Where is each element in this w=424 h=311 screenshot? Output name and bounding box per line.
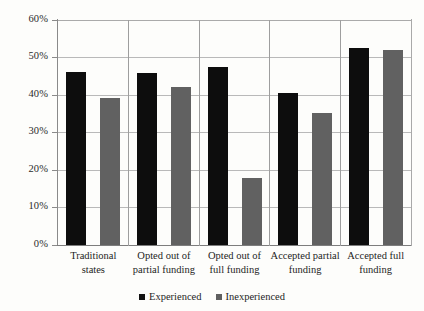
x-axis-label-line: Accepted partial bbox=[266, 249, 345, 263]
bar-experienced-1 bbox=[137, 73, 157, 246]
bar-inexperienced-3 bbox=[312, 113, 332, 245]
y-axis-label-30: 30% bbox=[4, 126, 48, 137]
y-axis-label-0: 0% bbox=[4, 239, 48, 250]
bars-layer bbox=[58, 20, 411, 245]
bar-chart: 60% 50% 40% 30% 20% 10% 0% Traditionalst… bbox=[0, 0, 424, 311]
x-axis-label-line: funding bbox=[336, 263, 415, 277]
legend-label-inexperienced: Inexperienced bbox=[226, 291, 285, 302]
black-square-icon bbox=[139, 294, 145, 300]
legend-item-experienced: Experienced bbox=[139, 291, 201, 302]
x-axis-label-line: Traditional bbox=[54, 249, 133, 263]
x-axis-label-4: Accepted fullfunding bbox=[336, 249, 415, 276]
plot-right-border bbox=[411, 19, 412, 246]
x-axis-label-line: Opted out of bbox=[195, 249, 274, 263]
x-axis-label-line: Accepted full bbox=[336, 249, 415, 263]
chart-legend: Experienced Inexperienced bbox=[0, 291, 424, 302]
x-axis-label-2: Opted out offull funding bbox=[195, 249, 274, 276]
legend-item-inexperienced: Inexperienced bbox=[216, 291, 285, 302]
x-axis-line bbox=[57, 245, 412, 246]
x-axis-label-line: Opted out of bbox=[125, 249, 204, 263]
gray-square-icon bbox=[216, 294, 222, 300]
x-axis-label-line: funding bbox=[266, 263, 345, 277]
x-axis-label-1: Opted out ofpartial funding bbox=[125, 249, 204, 276]
y-axis-label-50: 50% bbox=[4, 51, 48, 62]
bar-experienced-4 bbox=[349, 48, 369, 245]
y-axis-label-10: 10% bbox=[4, 201, 48, 212]
bar-inexperienced-4 bbox=[383, 50, 403, 245]
bar-experienced-3 bbox=[278, 93, 298, 245]
bar-experienced-2 bbox=[208, 67, 228, 245]
x-axis-label-3: Accepted partialfunding bbox=[266, 249, 345, 276]
x-axis-label-line: partial funding bbox=[125, 263, 204, 277]
x-axis-label-line: full funding bbox=[195, 263, 274, 277]
y-axis-label-60: 60% bbox=[4, 14, 48, 25]
x-axis-label-line: states bbox=[54, 263, 133, 277]
bar-inexperienced-2 bbox=[242, 178, 262, 245]
y-axis-label-40: 40% bbox=[4, 89, 48, 100]
x-axis-labels: TraditionalstatesOpted out ofpartial fun… bbox=[58, 249, 411, 289]
bar-inexperienced-0 bbox=[100, 98, 120, 245]
y-axis-label-20: 20% bbox=[4, 164, 48, 175]
bar-experienced-0 bbox=[66, 72, 86, 245]
x-axis-label-0: Traditionalstates bbox=[54, 249, 133, 276]
legend-label-experienced: Experienced bbox=[149, 291, 201, 302]
bar-inexperienced-1 bbox=[171, 87, 191, 245]
